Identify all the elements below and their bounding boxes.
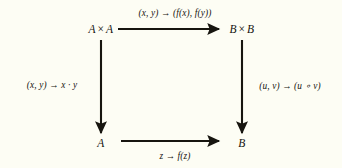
times-operator-icon: × (96, 23, 106, 35)
commutative-diagram: A×A B×B A B (x, y) → (f(x), f(y)) (x, y)… (0, 0, 342, 168)
node-top-left-base2: A (106, 23, 113, 35)
node-bottom-right: B (238, 137, 245, 149)
node-bottom-left: A (97, 137, 104, 149)
times-operator-icon: × (237, 23, 247, 35)
edge-label-right: (u, v) → (u ∘ v) (259, 80, 321, 91)
edge-label-bottom: z → f(z) (159, 151, 190, 161)
node-top-right: B×B (230, 23, 255, 35)
node-top-left: A×A (89, 23, 114, 35)
node-top-right-base2: B (247, 23, 254, 35)
edge-label-top: (x, y) → (f(x), f(y)) (139, 8, 212, 18)
edge-label-left: (x, y) → x · y (27, 80, 77, 90)
